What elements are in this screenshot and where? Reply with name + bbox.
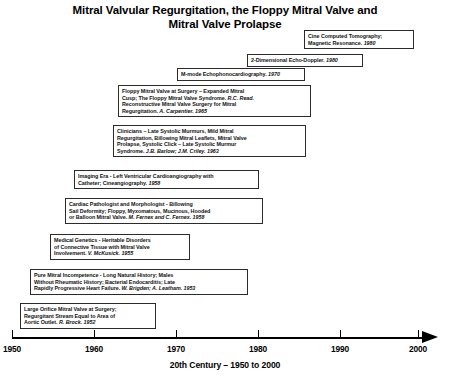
- event-line: Regurgitant Stream Equal to Area of: [24, 313, 152, 320]
- event-line: or Balloon Mitral Valve. M. Fernex and C…: [69, 214, 259, 221]
- timeline-figure: Mitral Valvular Regurgitation, the Flopp…: [0, 0, 450, 381]
- event-line: Rapidly Progressive Heart Failure. W. Br…: [34, 285, 244, 292]
- event-line: Aortic Outlet. R. Brock. 1952: [24, 319, 152, 326]
- event-line: Regurgitation, Billowing Mitral Leaflets…: [117, 135, 302, 142]
- axis-tick-1970: [176, 330, 177, 338]
- figure-title-line-1: Mitral Valvular Regurgitation, the Flopp…: [73, 4, 378, 16]
- event-box-imaging-era-cineangiography: Imaging Era - Left Ventricular Cardioang…: [74, 170, 259, 189]
- event-box-cardiac-pathologist-morphologist: Cardiac Pathologist and Morphologist - B…: [65, 198, 263, 224]
- axis-caption: 20th Century – 1950 to 2000: [0, 360, 450, 370]
- axis-tick-label-1950: 1950: [3, 344, 21, 354]
- event-line: M-mode Echophonocardiography. 1970: [181, 71, 301, 78]
- event-line: Syndrome. J.B. Barlow; J.M. Criley. 1963: [117, 148, 302, 155]
- axis-tick-1960: [94, 330, 95, 338]
- event-line: Prolapse, Systolic Click – Late Systolic…: [117, 141, 302, 148]
- event-box-2d-echo-doppler: 2-Dimensional Echo-Doppler. 1980: [247, 54, 363, 67]
- event-line: Clinicians – Late Systolic Murmurs, Mild…: [117, 128, 302, 135]
- event-line: Sail Deformity; Floppy, Myxomatous, Muci…: [69, 208, 259, 215]
- event-line: Cusp; The Floppy Mitral Valve Syndrome. …: [122, 95, 307, 102]
- event-box-floppy-mitral-valve-surgery: Floppy Mitral Valve at Surgery – Expande…: [118, 85, 311, 117]
- event-line: of Connective Tissue with Mitral Valve: [54, 244, 186, 251]
- event-box-m-mode-echophonocardiography: M-mode Echophonocardiography. 1970: [177, 68, 305, 81]
- event-box-pure-mitral-incompetence: Pure Mitral Incompetence - Long Natural …: [30, 269, 248, 295]
- event-box-medical-genetics-connective-tissue: Medical Genetics - Heritable Disordersof…: [50, 234, 190, 260]
- axis-tick-label-1980: 1980: [249, 344, 267, 354]
- event-line: Magnetic Resonance. 1980: [308, 40, 410, 47]
- event-line: Pure Mitral Incompetence - Long Natural …: [34, 272, 244, 279]
- event-line: Medical Genetics - Heritable Disorders: [54, 237, 186, 244]
- event-line: Cardiac Pathologist and Morphologist - B…: [69, 201, 259, 208]
- event-line: Catheter; Cineangiography. 1958: [78, 180, 255, 187]
- event-box-cine-ct-mri: Cine Computed Tomography;Magnetic Resona…: [304, 30, 414, 49]
- figure-title: Mitral Valvular Regurgitation, the Flopp…: [0, 4, 450, 31]
- axis-tick-1980: [258, 330, 259, 338]
- event-line: Involvement. V. McKusick. 1955: [54, 250, 186, 257]
- axis-tick-1950: [12, 330, 13, 338]
- event-box-clinicians-late-systolic-murmurs: Clinicians – Late Systolic Murmurs, Mild…: [113, 125, 306, 157]
- event-line: Cine Computed Tomography;: [308, 33, 410, 40]
- timeline-axis-arrow-icon: [422, 331, 438, 343]
- event-line: Reconstructive Mitral Valve Surgery for …: [122, 101, 307, 108]
- event-line: 2-Dimensional Echo-Doppler. 1980: [251, 57, 359, 64]
- event-line: Without Rheumatic History; Bacterial End…: [34, 279, 244, 286]
- event-line: Large Orifice Mitral Valve at Surgery;: [24, 306, 152, 313]
- event-line: Regurgitation. A. Carpentier. 1965: [122, 108, 307, 115]
- axis-tick-2000: [418, 330, 419, 338]
- axis-tick-label-2000: 2000: [409, 344, 427, 354]
- figure-title-line-2: Mitral Valve Prolapse: [0, 18, 450, 32]
- axis-tick-1990: [340, 330, 341, 338]
- timeline-axis-line: [12, 337, 426, 339]
- axis-tick-label-1960: 1960: [85, 344, 103, 354]
- event-box-large-orifice-mitral-valve-surgery: Large Orifice Mitral Valve at Surgery;Re…: [20, 303, 156, 329]
- event-line: Imaging Era - Left Ventricular Cardioang…: [78, 173, 255, 180]
- event-line: Floppy Mitral Valve at Surgery – Expande…: [122, 88, 307, 95]
- axis-tick-label-1990: 1990: [331, 344, 349, 354]
- axis-tick-label-1970: 1970: [167, 344, 185, 354]
